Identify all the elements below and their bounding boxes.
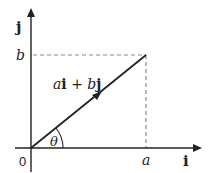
origin-label: 0 bbox=[19, 155, 26, 168]
x-axis-arrow-icon bbox=[193, 144, 202, 152]
y-tick-label: b bbox=[16, 48, 25, 62]
vector-label-j: j bbox=[96, 76, 101, 92]
vector-label-b: b bbox=[87, 76, 96, 92]
vector-label: ai + bj bbox=[53, 77, 101, 91]
vector-line bbox=[31, 55, 146, 148]
vector-arrow-icon bbox=[92, 91, 102, 100]
vector-label-plus: + bbox=[71, 76, 83, 92]
x-axis-label: i bbox=[183, 154, 189, 169]
x-tick-label: a bbox=[142, 153, 150, 167]
angle-label: θ bbox=[50, 135, 58, 148]
y-axis-arrow-icon bbox=[27, 8, 35, 17]
vector-label-i: i bbox=[61, 76, 66, 92]
y-axis-label: j bbox=[16, 20, 21, 35]
diagram-canvas bbox=[0, 0, 208, 173]
vector-diagram: j b 0 a i θ ai + bj bbox=[0, 0, 208, 173]
